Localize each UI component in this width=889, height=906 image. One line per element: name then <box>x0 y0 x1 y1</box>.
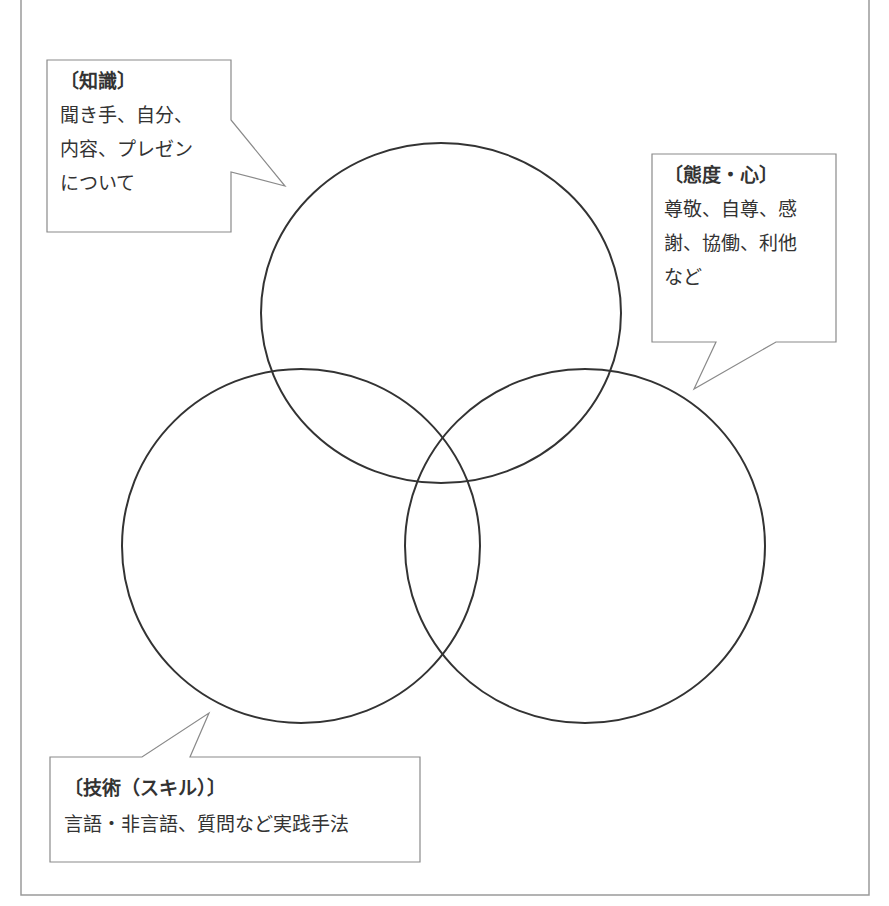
skill-heading: 〔技術（スキル）〕 <box>64 770 349 806</box>
attitude-line-3: など <box>664 260 797 294</box>
skill-circle <box>122 369 480 723</box>
knowledge-heading: 〔知識〕 <box>60 64 193 98</box>
attitude-circle <box>405 369 765 723</box>
knowledge-line-3: について <box>60 166 193 200</box>
skill-line-1: 言語・非言語、質問など実践手法 <box>64 806 349 842</box>
knowledge-line-1: 聞き手、自分、 <box>60 98 193 132</box>
skill-callout: 〔技術（スキル）〕 言語・非言語、質問など実践手法 <box>64 770 349 842</box>
knowledge-callout: 〔知識〕 聞き手、自分、 内容、プレゼン について <box>60 64 193 200</box>
attitude-line-1: 尊敬、自尊、感 <box>664 192 797 226</box>
attitude-heading: 〔態度・心〕 <box>664 158 797 192</box>
attitude-line-2: 謝、協働、利他 <box>664 226 797 260</box>
knowledge-circle <box>261 143 621 483</box>
knowledge-line-2: 内容、プレゼン <box>60 132 193 166</box>
attitude-callout: 〔態度・心〕 尊敬、自尊、感 謝、協働、利他 など <box>664 158 797 294</box>
